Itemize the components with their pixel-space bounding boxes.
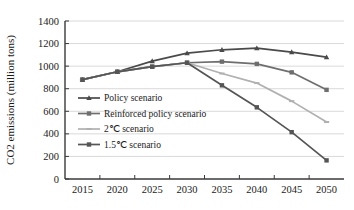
- x-tick-label: 2040: [246, 184, 267, 195]
- legend-item: 2℃ scenario: [78, 124, 154, 134]
- x-tick-label: 2030: [177, 184, 198, 195]
- data-point-marker: [87, 142, 91, 146]
- chart-canvas: 0200400600800100012001400 20152020202520…: [0, 0, 354, 210]
- data-point-marker: [289, 70, 293, 74]
- y-axis-tick-labels: 0200400600800100012001400: [38, 16, 59, 185]
- data-point-marker: [324, 121, 329, 123]
- x-axis-tick-labels: 20152020202520302035204020452050: [72, 184, 337, 195]
- data-point-marker: [220, 83, 224, 87]
- legend-item: Reinforced policy scenario: [78, 109, 207, 119]
- y-tick-label: 1200: [38, 38, 59, 49]
- x-tick-label: 2050: [316, 184, 337, 195]
- x-tick-label: 2035: [211, 184, 232, 195]
- x-tick-label: 2025: [142, 184, 163, 195]
- legend-label: 1.5℃ scenario: [104, 140, 161, 150]
- data-point-marker: [324, 158, 328, 162]
- y-tick-label: 0: [54, 174, 59, 185]
- legend-label: Reinforced policy scenario: [104, 109, 207, 119]
- x-tick-label: 2045: [281, 184, 302, 195]
- data-point-marker: [254, 82, 259, 84]
- data-point-marker: [80, 77, 84, 81]
- y-tick-label: 1000: [38, 61, 59, 72]
- data-point-marker: [86, 128, 91, 130]
- y-tick-label: 200: [43, 151, 59, 162]
- data-point-marker: [324, 88, 328, 92]
- data-point-marker: [185, 61, 189, 65]
- y-axis-title: CO2 emissions (million tons): [4, 35, 17, 165]
- gridlines-group: [65, 21, 344, 156]
- legend-item: 1.5℃ scenario: [78, 140, 161, 150]
- co2-emissions-line-chart: 0200400600800100012001400 20152020202520…: [0, 0, 354, 210]
- series-policy-scenario: [80, 45, 330, 81]
- y-tick-label: 400: [43, 128, 59, 139]
- data-point-marker: [289, 130, 293, 134]
- data-point-marker: [220, 59, 224, 63]
- data-point-marker: [115, 70, 119, 74]
- data-point-marker: [150, 65, 154, 69]
- data-point-marker: [255, 62, 259, 66]
- data-point-marker: [289, 100, 294, 102]
- legend-label: 2℃ scenario: [104, 124, 154, 134]
- legend-item: Policy scenario: [78, 93, 163, 103]
- y-tick-label: 600: [43, 106, 59, 117]
- legend-label: Policy scenario: [104, 93, 163, 103]
- legend: Policy scenarioReinforced policy scenari…: [78, 93, 207, 149]
- series-reinforced-policy-scenario: [80, 59, 329, 92]
- y-tick-label: 800: [43, 83, 59, 94]
- x-tick-label: 2020: [107, 184, 128, 195]
- data-point-marker: [255, 105, 259, 109]
- y-tick-label: 1400: [38, 16, 59, 27]
- data-point-marker: [87, 111, 91, 115]
- x-tick-label: 2015: [72, 184, 93, 195]
- data-point-marker: [219, 72, 224, 74]
